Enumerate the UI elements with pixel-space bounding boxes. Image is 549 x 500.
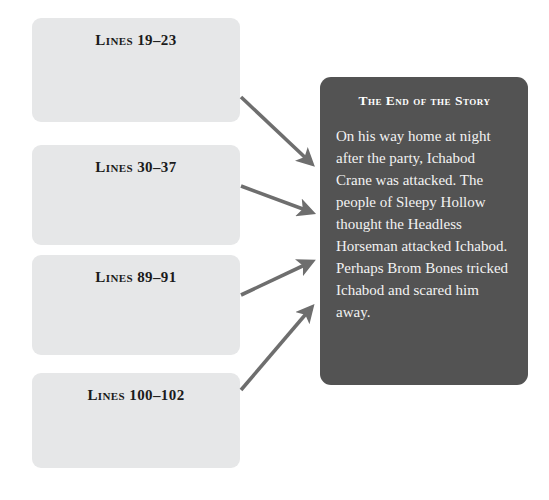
source-box-lines-30-37[interactable]: Lines 30–37 — [32, 145, 240, 245]
summary-panel-body-text: On his way home at night after the party… — [336, 125, 513, 323]
source-box-lines-19-23[interactable]: Lines 19–23 — [32, 18, 240, 122]
summary-panel[interactable]: The End of the Story On his way home at … — [320, 77, 528, 385]
source-box-label: Lines 89–91 — [32, 269, 240, 286]
source-box-label: Lines 19–23 — [32, 32, 240, 49]
arrow-lines-30-37-to-summary — [241, 186, 311, 212]
arrow-lines-19-23-to-summary — [241, 97, 311, 163]
source-box-lines-100-102[interactable]: Lines 100–102 — [32, 373, 240, 468]
source-box-label: Lines 30–37 — [32, 159, 240, 176]
source-box-label: Lines 100–102 — [32, 387, 240, 404]
source-box-lines-89-91[interactable]: Lines 89–91 — [32, 255, 240, 355]
concept-map-diagram: Lines 19–23 Lines 30–37 Lines 89–91 Line… — [0, 0, 549, 500]
arrow-lines-89-91-to-summary — [241, 262, 311, 295]
summary-panel-heading: The End of the Story — [336, 93, 513, 109]
arrow-lines-100-102-to-summary — [241, 308, 311, 390]
